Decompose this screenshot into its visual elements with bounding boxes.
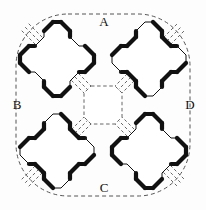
central-octagonal-void (84, 86, 122, 124)
label-c: C (100, 180, 109, 195)
figure-container: A B C D (0, 0, 206, 210)
label-b: B (13, 97, 22, 112)
label-a: A (99, 14, 109, 29)
label-d: D (185, 97, 194, 112)
cross-array-diagram: A B C D (0, 0, 206, 210)
